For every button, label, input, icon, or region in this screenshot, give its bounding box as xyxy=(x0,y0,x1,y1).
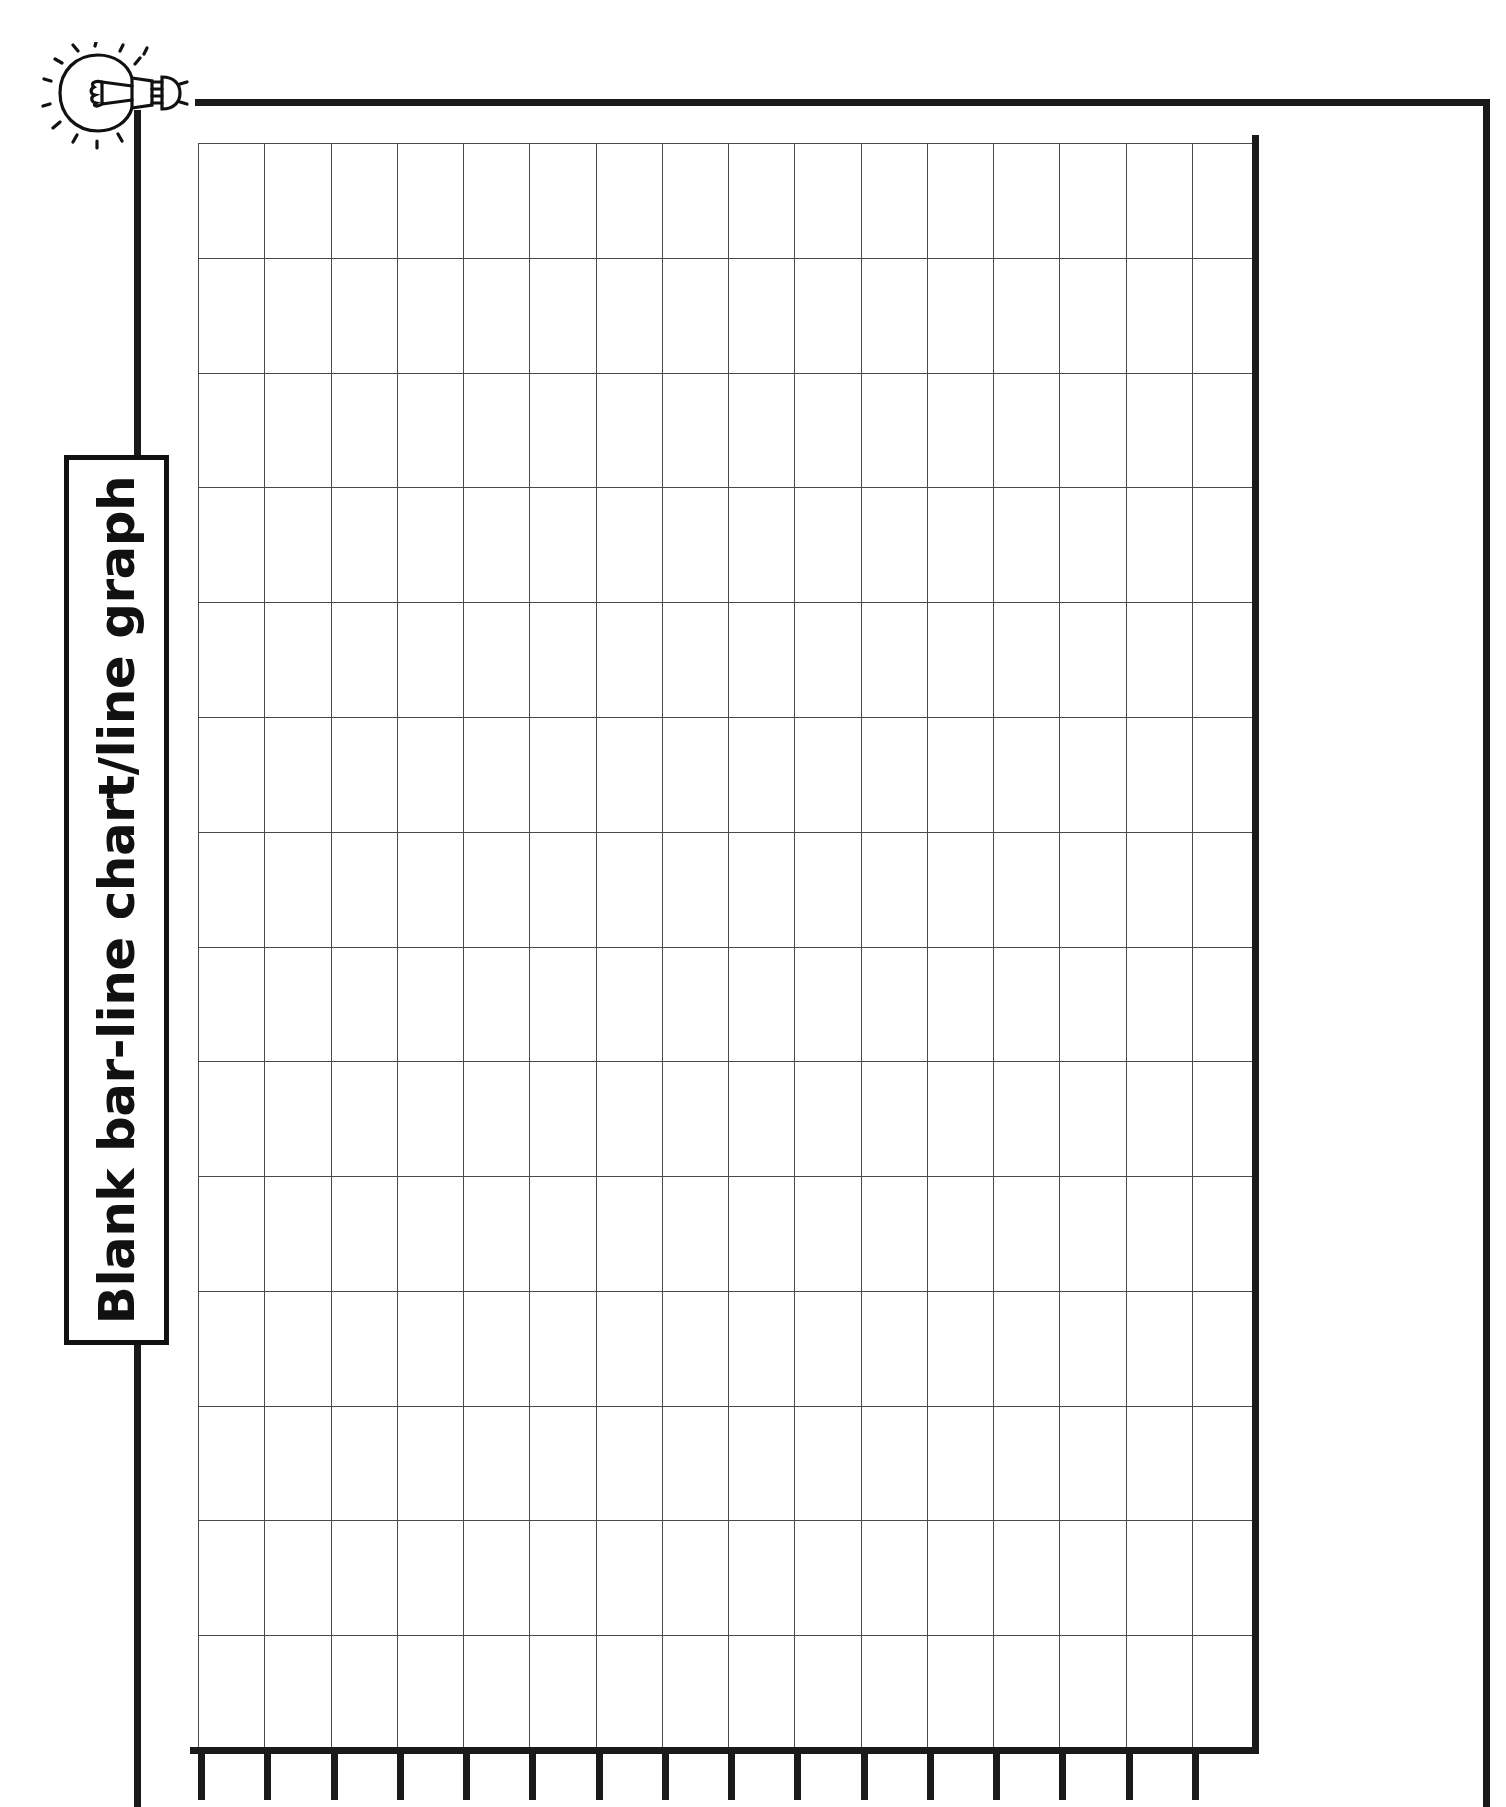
x-axis-tick xyxy=(198,1753,205,1800)
x-axis-tick xyxy=(1126,1753,1133,1800)
grid-horizontal-line xyxy=(198,602,1258,603)
x-axis-tick xyxy=(331,1753,338,1800)
grid-horizontal-line xyxy=(198,373,1258,374)
x-axis-tick xyxy=(1059,1753,1066,1800)
x-axis-tick xyxy=(463,1753,470,1800)
x-axis-tick xyxy=(264,1753,271,1800)
grid-horizontal-line xyxy=(198,1176,1258,1177)
x-axis-tick xyxy=(662,1753,669,1800)
lightbulb-icon xyxy=(40,42,200,167)
grid-horizontal-line xyxy=(198,1291,1258,1292)
x-axis-tick xyxy=(596,1753,603,1800)
page-border-left-lower xyxy=(134,1341,141,1807)
x-axis-line xyxy=(190,1747,1259,1754)
page-border-top xyxy=(195,99,1490,106)
grid-horizontal-line xyxy=(198,832,1258,833)
page-border-right xyxy=(1483,99,1490,1807)
grid-horizontal-line xyxy=(198,717,1258,718)
grid-horizontal-line xyxy=(198,947,1258,948)
worksheet-page: Blank bar-line chart/line graph xyxy=(0,0,1506,1807)
y-axis-line xyxy=(1252,135,1259,1753)
grid-horizontal-line xyxy=(198,487,1258,488)
grid-horizontal-line xyxy=(198,1635,1258,1636)
x-axis-tick xyxy=(927,1753,934,1800)
page-title: Blank bar-line chart/line graph xyxy=(92,476,142,1324)
title-banner: Blank bar-line chart/line graph xyxy=(64,455,169,1345)
x-axis-tick xyxy=(1192,1753,1199,1800)
x-axis-tick xyxy=(397,1753,404,1800)
grid-area xyxy=(198,143,1258,1750)
x-axis-tick xyxy=(993,1753,1000,1800)
x-axis-tick xyxy=(529,1753,536,1800)
x-axis-tick xyxy=(728,1753,735,1800)
grid-horizontal-line xyxy=(198,1061,1258,1062)
x-axis-tick xyxy=(794,1753,801,1800)
grid-horizontal-line xyxy=(198,258,1258,259)
x-axis-tick xyxy=(861,1753,868,1800)
grid-horizontal-line xyxy=(198,143,1258,144)
grid-horizontal-line xyxy=(198,1406,1258,1407)
graph-container xyxy=(198,143,1258,1750)
grid-horizontal-line xyxy=(198,1520,1258,1521)
